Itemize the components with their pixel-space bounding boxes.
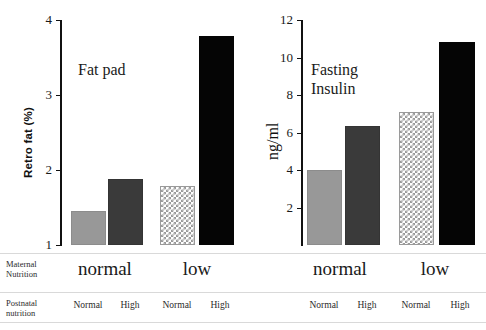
sub-label-left-low-high: High (200, 300, 240, 310)
sub-label-right-low-high: High (440, 300, 480, 310)
bar-insulin-normal-high[interactable] (345, 126, 380, 245)
bar-fatpad-low-high[interactable] (199, 36, 234, 245)
panel-fasting-insulin: 12 10 8 6 4 2 ng/ml Fasting Insulin norm… (243, 0, 486, 330)
sub-label-left-normal-high: High (110, 300, 150, 310)
sub-label-left-normal-normal: Normal (64, 300, 112, 310)
row-header-maternal: Maternal Nutrition (6, 259, 60, 279)
bar-group-fat-pad (0, 20, 243, 245)
group-label-right-low: low (395, 258, 475, 280)
sub-label-left-low-normal: Normal (153, 300, 201, 310)
separator-rule-bottom (0, 322, 486, 323)
bar-insulin-low-high[interactable] (439, 42, 475, 245)
row-header-postnatal: Postnatal nutrition (6, 298, 60, 318)
group-label-right-normal: normal (295, 258, 385, 280)
bar-insulin-low-normal[interactable] (399, 112, 434, 245)
bar-group-fasting-insulin (243, 20, 486, 245)
separator-rule-middle (0, 292, 486, 293)
plot-area-fasting-insulin: 12 10 8 6 4 2 ng/ml Fasting Insulin (243, 0, 486, 250)
separator-rule-top (0, 253, 486, 254)
panel-fat-pad: 4 3 2 1 Retro fat (%) Fat pad Maternal N… (0, 0, 243, 330)
sub-label-right-low-normal: Normal (392, 300, 440, 310)
group-label-left-low: low (157, 258, 237, 280)
figure-root: 4 3 2 1 Retro fat (%) Fat pad Maternal N… (0, 0, 486, 330)
y-tick-left-1 (56, 245, 61, 246)
bar-fatpad-normal-high[interactable] (108, 179, 143, 245)
plot-area-fat-pad: 4 3 2 1 Retro fat (%) Fat pad (0, 0, 243, 250)
bar-insulin-normal-normal[interactable] (307, 170, 342, 245)
bar-fatpad-normal-normal[interactable] (71, 211, 106, 245)
bar-fatpad-low-normal[interactable] (160, 186, 195, 245)
group-label-left-normal: normal (60, 258, 150, 280)
sub-label-right-normal-high: High (347, 300, 387, 310)
sub-label-right-normal-normal: Normal (300, 300, 348, 310)
